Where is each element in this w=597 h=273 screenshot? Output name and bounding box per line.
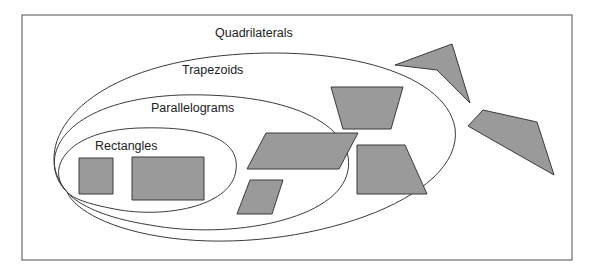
quadrilateral-hierarchy-diagram: Quadrilaterals Trapezoids Parallelograms… [0,0,597,273]
shape-square [79,158,113,194]
label-rectangles: Rectangles [95,139,158,153]
label-parallelograms: Parallelograms [151,101,234,115]
shape-trapezoid-inverted [331,87,403,129]
shape-rectangle [132,157,204,200]
shape-parallelogram-large [247,133,358,169]
label-trapezoids: Trapezoids [182,63,243,77]
label-quadrilaterals: Quadrilaterals [215,26,293,40]
